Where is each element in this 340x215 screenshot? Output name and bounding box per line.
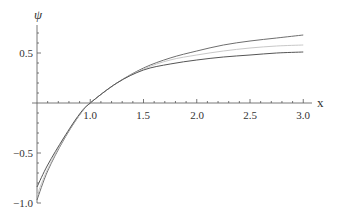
series-group — [37, 35, 303, 200]
chart: 1.0 1.5 2.0 2.5 3.0 0.5 −0.5 −1.0 x ψ — [0, 0, 340, 215]
x-ticks — [48, 99, 304, 103]
y-tick-label: 0.5 — [19, 47, 33, 59]
x-tick-label: 2.5 — [243, 109, 257, 121]
y-ticks — [37, 33, 41, 203]
y-tick-label: −1.0 — [13, 197, 33, 209]
x-tick-label: 1.0 — [83, 109, 97, 121]
x-tick-label: 1.5 — [136, 109, 150, 121]
x-axis-label: x — [317, 95, 324, 110]
axes — [32, 25, 312, 203]
x-tick-label: 3.0 — [296, 109, 310, 121]
tick-labels: 1.0 1.5 2.0 2.5 3.0 0.5 −0.5 −1.0 x ψ — [13, 7, 324, 209]
y-axis-label: ψ — [34, 7, 43, 22]
y-tick-label: −0.5 — [13, 147, 33, 159]
x-tick-label: 2.0 — [190, 109, 204, 121]
series-line-curve-2 — [37, 45, 303, 195]
